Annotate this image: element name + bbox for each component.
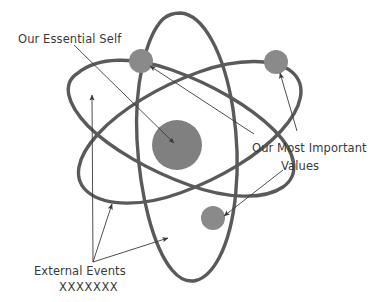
electron-lower bbox=[201, 206, 225, 230]
diagram-canvas: Our Essential Self Our Most Important Va… bbox=[0, 0, 388, 302]
label-external-events-line1: External Events bbox=[34, 264, 126, 278]
nucleus bbox=[152, 120, 202, 170]
electron-top bbox=[129, 49, 153, 73]
label-most-important-values-line2: Values bbox=[281, 159, 319, 173]
label-most-important-values-line1: Our Most Important bbox=[252, 141, 367, 155]
atom-diagram: Our Essential Self Our Most Important Va… bbox=[0, 0, 388, 302]
label-essential-self: Our Essential Self bbox=[18, 32, 122, 46]
label-external-events-line2: XXXXXXX bbox=[59, 280, 118, 294]
electron-right bbox=[264, 50, 288, 74]
